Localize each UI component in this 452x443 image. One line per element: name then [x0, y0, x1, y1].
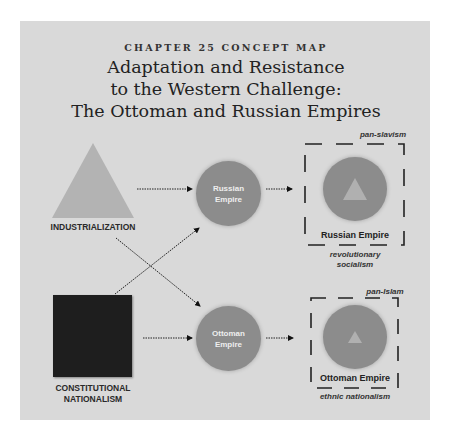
constitutional-nationalism-square [53, 295, 132, 377]
industrialization-label: INDUSTRIALIZATION [40, 222, 146, 233]
revolutionary-socialism-note: revolutionary socialism [310, 250, 400, 270]
note-line-1: revolutionary [310, 250, 400, 260]
constitutional-nationalism-label: CONSTITUTIONAL NATIONALISM [40, 383, 146, 405]
russian-outcome-label: Russian Empire [310, 230, 400, 240]
node-label-line-1: Ottoman [212, 328, 245, 339]
ottoman-outcome-label: Ottoman Empire [305, 373, 405, 383]
ottoman-empire-node: Ottoman Empire [196, 306, 261, 371]
label-line-2: NATIONALISM [40, 394, 146, 405]
arrow-nationalism-russian [115, 228, 199, 294]
pan-slavism-note: pan-slavism [348, 130, 418, 140]
node-label-line-1: Russian [213, 183, 244, 194]
russian-outcome-triangle [343, 178, 367, 200]
russian-empire-node: Russian Empire [196, 161, 261, 226]
label-line-1: CONSTITUTIONAL [40, 383, 146, 394]
node-label-line-2: Empire [213, 194, 244, 205]
node-label-line-2: Empire [212, 339, 245, 350]
ottoman-outcome-triangle [348, 331, 362, 343]
ethnic-nationalism-note: ethnic nationalism [305, 392, 405, 402]
pan-islam-note: pan-Islam [355, 287, 415, 297]
note-line-2: socialism [310, 260, 400, 270]
industrialization-triangle [52, 143, 134, 218]
